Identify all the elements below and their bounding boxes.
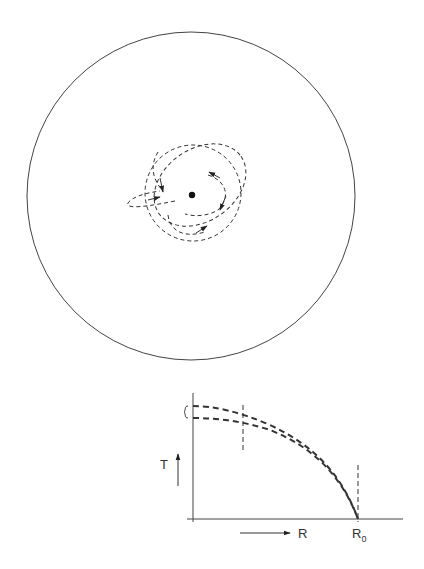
- diagram-canvas: [0, 0, 424, 569]
- lower-profile-curve: [193, 418, 358, 519]
- temperature-plot: [178, 393, 403, 533]
- brace-icon: [184, 406, 188, 418]
- r0-label: R0: [352, 527, 366, 540]
- arrow-icon: [209, 172, 220, 178]
- container-figure: [27, 32, 355, 360]
- orbit-arrowheads: [148, 172, 226, 233]
- y-axis-label: T: [160, 458, 168, 471]
- r0-label-main: R: [352, 526, 361, 541]
- orbit-trajectories: [128, 127, 262, 243]
- r0-label-sub: 0: [361, 534, 366, 544]
- x-axis-label: R: [298, 527, 307, 540]
- upper-profile-curve: [193, 406, 358, 519]
- arrow-icon: [160, 178, 163, 192]
- arrow-icon: [220, 196, 226, 210]
- arrow-icon: [196, 226, 207, 233]
- orbit-loop-ellipse: [138, 127, 261, 243]
- central-particle-dot: [189, 192, 195, 198]
